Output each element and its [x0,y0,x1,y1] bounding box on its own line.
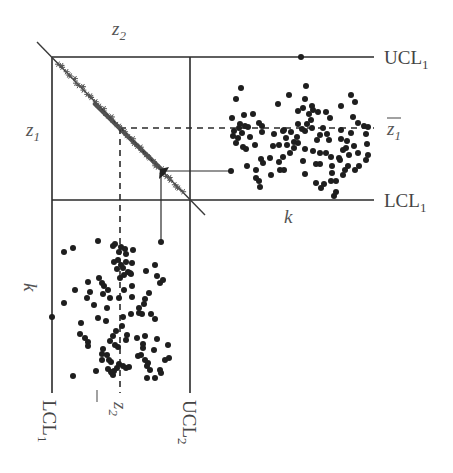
z1-bar-text: z1 [386,118,401,143]
z1-scatter-points [228,54,371,199]
ucl2-label: UCL2 [175,400,200,445]
z2-axis-label: z2 [111,18,126,43]
z2-scatter-points [49,238,172,381]
lcl1-label-right: LCL1 [384,190,426,215]
z1-bar-label: z1 [386,118,401,143]
z2-bar-label: z2 [97,390,131,416]
k-label-right: k [284,206,293,227]
z1-axis-label: z1 [25,119,40,144]
labels: z2 z1 UCL1 z1 LCL1 k k LCL1 z2 UCL2 [20,18,429,445]
z2-bar-text: z2 [106,401,131,416]
ucl1-label: UCL1 [384,47,429,72]
lcl1-label-bottom: LCL1 [35,400,60,442]
bivariate-control-diagram: z2 z1 UCL1 z1 LCL1 k k LCL1 z2 UCL2 [0,0,453,473]
k-label-left: k [20,283,41,292]
